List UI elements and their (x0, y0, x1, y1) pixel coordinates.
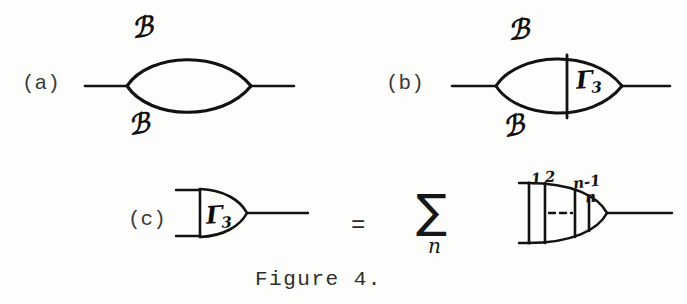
figure-line-art (0, 0, 687, 304)
figure-caption: Figure 4. (255, 268, 382, 291)
panel-label-a: (a) (22, 72, 60, 95)
ladder-lower-rail (528, 213, 607, 243)
equals-sign: = (351, 212, 365, 239)
vertex-label-b: Γ3 (575, 67, 602, 97)
gamma-subscript-c: 3 (221, 213, 233, 232)
diagram-c-lhs-group (176, 189, 308, 237)
gamma-subscript-b: 3 (591, 78, 603, 97)
summation-symbol: ∑ (416, 188, 447, 234)
vertex-label-c: Γ3 (205, 202, 232, 232)
diagram-b-upper-arc (496, 59, 622, 86)
rung-label-1: 1 (530, 170, 542, 189)
diagram-a-upper-arc (127, 60, 251, 86)
propagator-label-b-lower: ℬ (500, 108, 527, 143)
panel-label-b: (b) (386, 72, 424, 95)
rung-label-2: 2 (544, 168, 556, 187)
rung-label-n: n (584, 188, 596, 207)
panel-label-c: (c) (128, 208, 166, 231)
propagator-label-a-lower: ℬ (125, 106, 151, 140)
figure-4-container: (a) ℬ ℬ (b) ℬ ℬ Γ3 (c) Γ3 = ∑ n 1 2 n-1 … (0, 0, 687, 304)
summation-index: n (428, 234, 441, 258)
diagram-b-group (452, 55, 670, 118)
propagator-label-a-upper: ℬ (130, 11, 155, 45)
propagator-label-b-upper: ℬ (506, 13, 530, 46)
diagram-a-group (85, 60, 294, 113)
